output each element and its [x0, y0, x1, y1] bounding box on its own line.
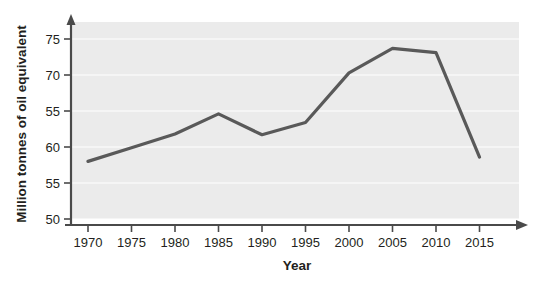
- x-tick-label-2010: 2010: [422, 235, 451, 250]
- y-tick-label-50: 50: [46, 212, 60, 227]
- x-tick-label-1980: 1980: [161, 235, 190, 250]
- x-tick-label-1985: 1985: [204, 235, 233, 250]
- y-tick-label-55: 55: [46, 176, 60, 191]
- plot-area-background: [71, 22, 519, 219]
- x-tick-label-1975: 1975: [117, 235, 146, 250]
- y-tick-label-70: 70: [46, 68, 60, 83]
- x-tick-label-2015: 2015: [465, 235, 494, 250]
- x-tick-label-2005: 2005: [378, 235, 407, 250]
- x-tick-label-1970: 1970: [74, 235, 103, 250]
- y-tick-label-75: 75: [46, 32, 60, 47]
- x-axis-title: Year: [283, 258, 312, 273]
- x-tick-label-2000: 2000: [335, 235, 364, 250]
- y-tick-label-60: 60: [46, 140, 60, 155]
- y-axis-arrowhead: [67, 14, 76, 25]
- x-axis: [65, 220, 528, 232]
- x-axis-arrowhead: [516, 220, 528, 230]
- x-tick-label-1990: 1990: [248, 235, 277, 250]
- line-chart: 75 70 55 60 55 50 1970 1975 1980 1985 19…: [0, 0, 537, 282]
- x-tick-label-1995: 1995: [291, 235, 320, 250]
- y-tick-label-65: 55: [46, 104, 60, 119]
- y-axis-title: Million tonnes of oil equivalent: [14, 25, 29, 223]
- chart-figure: 75 70 55 60 55 50 1970 1975 1980 1985 19…: [0, 0, 537, 282]
